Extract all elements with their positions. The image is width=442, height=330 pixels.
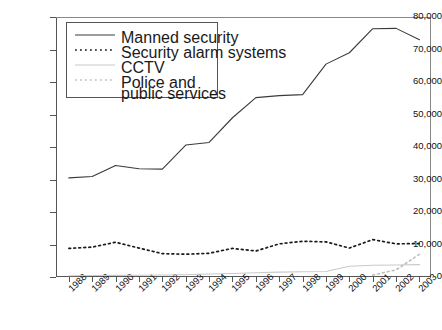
- y-axis-tick-label: 40,000: [396, 141, 442, 151]
- legend-label-police-line2: public services: [121, 85, 226, 103]
- y-axis-tick-label: 80,000: [396, 11, 442, 21]
- y-axis-tick-mark: [50, 212, 56, 213]
- y-axis-tick-mark: [50, 50, 56, 51]
- y-axis-tick-mark: [50, 82, 56, 83]
- y-axis-tick-mark: [50, 180, 56, 181]
- y-axis-tick-label: 10,000: [396, 239, 442, 249]
- y-axis-tick-mark: [50, 245, 56, 246]
- y-axis-tick-label: 20,000: [396, 206, 442, 216]
- y-axis-tick-mark: [50, 115, 56, 116]
- y-axis-tick-label: 50,000: [396, 109, 442, 119]
- y-axis-tick-label: 70,000: [396, 44, 442, 54]
- y-axis-tick-mark: [50, 277, 56, 278]
- y-axis-tick-mark: [50, 17, 56, 18]
- y-axis-tick-mark: [50, 147, 56, 148]
- y-axis-tick-label: 30,000: [396, 174, 442, 184]
- top-axis-line: [56, 17, 431, 18]
- chart-legend: Manned security Security alarm systems C…: [66, 22, 218, 98]
- y-axis-tick-label: 60,000: [396, 76, 442, 86]
- line-chart: 80,00070,00060,00050,00040,00030,00020,0…: [0, 0, 442, 330]
